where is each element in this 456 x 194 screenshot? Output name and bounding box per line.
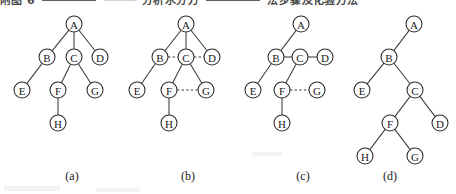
edge-c-B-E-solid <box>258 64 272 84</box>
node-label-d-H: H <box>361 151 369 163</box>
node-label-c-F: F <box>279 85 285 97</box>
tree-node-a-E: E <box>14 82 30 98</box>
tree-node-b-C: C <box>178 49 194 65</box>
edge-d-B-C-solid <box>394 63 410 83</box>
edge-a-C-G-solid <box>78 64 90 84</box>
figure-root: 附图 6 一一一 分析水分方 法步骤及化验方法 ABCDEFGH(a)ABCDE… <box>0 0 456 194</box>
tree-diagram-canvas: ABCDEFGH(a)ABCDEFGH(b)ABCDEFGH(c)ABECFDH… <box>0 0 456 194</box>
edge-d-F-H-solid <box>370 129 385 149</box>
tree-node-d-F: F <box>382 115 398 131</box>
node-label-b-B: B <box>156 52 163 64</box>
node-label-a-B: B <box>43 52 50 64</box>
tree-node-d-B: B <box>381 49 397 65</box>
edge-c-A-B-solid <box>281 30 296 50</box>
node-label-d-E: E <box>359 85 366 97</box>
tree-node-a-H: H <box>50 115 66 131</box>
edge-d-C-D-solid <box>420 96 435 116</box>
tree-node-b-H: H <box>161 115 177 131</box>
tree-node-a-D: D <box>92 49 108 65</box>
edge-d-C-F-solid <box>395 96 410 116</box>
node-label-c-B: B <box>272 52 279 64</box>
edge-d-F-G-solid <box>395 129 410 149</box>
node-label-b-A: A <box>182 19 190 31</box>
panel-caption-b: (b) <box>181 169 195 183</box>
tree-node-b-B: B <box>152 49 168 65</box>
tree-node-b-G: G <box>198 82 214 98</box>
edge-a-C-F-solid <box>61 64 70 83</box>
edge-b-A-D-solid <box>191 30 207 50</box>
tree-node-c-H: H <box>274 115 290 131</box>
tree-node-c-C: C <box>292 49 308 65</box>
edge-b-C-F-solid <box>173 64 183 83</box>
node-label-a-F: F <box>55 85 61 97</box>
node-label-d-B: B <box>385 52 392 64</box>
node-label-c-D: D <box>321 52 329 64</box>
node-label-d-G: G <box>411 151 419 163</box>
edge-b-C-G-solid <box>190 64 202 83</box>
node-label-a-A: A <box>70 19 78 31</box>
panel-caption-d: (d) <box>383 169 397 183</box>
node-label-a-C: C <box>70 52 77 64</box>
tree-node-b-A: A <box>178 16 194 32</box>
tree-node-d-H: H <box>357 148 373 164</box>
tree-node-c-A: A <box>293 16 309 32</box>
tree-panel-d: ABECFDHG(d) <box>354 16 448 183</box>
node-label-b-C: C <box>182 52 189 64</box>
node-label-b-D: D <box>208 52 216 64</box>
tree-panel-b: ABCDEFGH(b) <box>129 16 220 183</box>
node-label-a-H: H <box>54 118 62 130</box>
tree-panel-a: ABCDEFGH(a) <box>14 16 108 183</box>
node-label-a-G: G <box>91 85 99 97</box>
tree-node-d-G: G <box>407 148 423 164</box>
node-label-b-E: E <box>134 85 141 97</box>
node-label-c-H: H <box>278 118 286 130</box>
node-label-c-C: C <box>296 52 303 64</box>
edge-c-C-F-solid <box>286 64 296 83</box>
tree-node-c-F: F <box>274 82 290 98</box>
tree-node-c-B: B <box>268 49 284 65</box>
tree-node-c-D: D <box>317 49 333 65</box>
tree-node-b-E: E <box>129 82 145 98</box>
tree-panel-c: ABCDEFGH(c) <box>245 16 333 183</box>
node-label-b-H: H <box>165 118 173 130</box>
node-label-d-D: D <box>436 118 444 130</box>
tree-node-c-G: G <box>309 82 325 98</box>
tree-node-b-F: F <box>161 82 177 98</box>
panel-caption-c: (c) <box>296 169 309 183</box>
edge-d-B-E-solid <box>367 63 384 84</box>
tree-node-a-A: A <box>66 16 82 32</box>
tree-node-d-D: D <box>432 115 448 131</box>
node-label-d-A: A <box>410 19 418 31</box>
tree-node-a-C: C <box>66 49 82 65</box>
edge-a-A-B-solid <box>52 30 69 51</box>
edge-b-A-B-solid <box>165 30 181 50</box>
edge-a-B-E-solid <box>27 63 42 83</box>
node-label-b-G: G <box>202 85 210 97</box>
node-label-c-E: E <box>250 85 257 97</box>
node-label-d-C: C <box>411 85 418 97</box>
tree-node-d-A: A <box>406 16 422 32</box>
panel-caption-a: (a) <box>65 169 78 183</box>
edge-d-A-B-solid <box>394 30 409 50</box>
tree-node-d-E: E <box>354 82 370 98</box>
node-label-c-A: A <box>297 19 305 31</box>
tree-node-a-G: G <box>87 82 103 98</box>
edge-b-B-E-solid <box>142 64 156 84</box>
node-label-d-F: F <box>387 118 393 130</box>
tree-node-a-B: B <box>39 49 55 65</box>
edge-a-A-D-solid <box>79 30 95 50</box>
tree-node-d-C: C <box>407 82 423 98</box>
node-label-c-G: G <box>313 85 321 97</box>
node-label-a-D: D <box>96 52 104 64</box>
node-label-b-F: F <box>166 85 172 97</box>
node-label-a-E: E <box>19 85 26 97</box>
tree-node-c-E: E <box>245 82 261 98</box>
tree-node-a-F: F <box>50 82 66 98</box>
tree-node-b-D: D <box>204 49 220 65</box>
